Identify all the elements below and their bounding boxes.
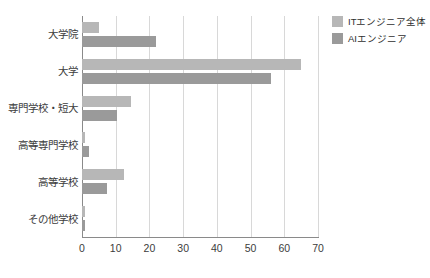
bar-ai [82, 36, 156, 47]
x-axis-tick-labels: 010203040506070 [82, 241, 318, 257]
bar-ai [82, 73, 271, 84]
bar-ai [82, 146, 89, 157]
y-axis-label: 高等専門学校 [2, 139, 78, 151]
y-axis-label: 大学院 [2, 28, 78, 40]
x-tick-label: 60 [278, 241, 290, 255]
bar-it [82, 132, 85, 143]
gridlines [82, 16, 318, 237]
x-tick-label: 70 [312, 241, 324, 255]
y-axis-label: その他学校 [2, 213, 78, 225]
bar-ai [82, 183, 107, 194]
bar-it [82, 59, 301, 70]
bar-chart: 大学院大学専門学校・短大高等専門学校高等学校その他学校 010203040506… [0, 0, 430, 278]
gridline-60 [284, 16, 285, 237]
legend-item-ai[interactable]: AIエンジニア [332, 33, 428, 44]
y-axis-label: 大学 [2, 65, 78, 77]
chart-legend: ITエンジニア全体AIエンジニア [332, 16, 428, 50]
plot-area [82, 16, 318, 237]
y-axis-label: 高等学校 [2, 176, 78, 188]
legend-item-it[interactable]: ITエンジニア全体 [332, 16, 428, 27]
legend-label: AIエンジニア [348, 33, 407, 44]
gridline-30 [183, 16, 184, 237]
bar-it [82, 206, 85, 217]
x-tick-label: 20 [144, 241, 156, 255]
x-tick-label: 30 [177, 241, 189, 255]
gridline-50 [251, 16, 252, 237]
y-axis-label: 専門学校・短大 [2, 102, 78, 114]
bar-ai [82, 110, 117, 121]
gridline-40 [217, 16, 218, 237]
gridline-0 [82, 16, 83, 237]
x-axis-line [82, 237, 319, 238]
gridline-20 [149, 16, 150, 237]
x-tick-label: 40 [211, 241, 223, 255]
bar-it [82, 169, 124, 180]
x-tick-label: 50 [245, 241, 257, 255]
legend-swatch-icon [332, 33, 343, 44]
x-tick-label: 10 [110, 241, 122, 255]
legend-label: ITエンジニア全体 [348, 16, 426, 27]
x-tick-label: 0 [79, 241, 85, 255]
gridline-10 [116, 16, 117, 237]
y-axis-category-labels: 大学院大学専門学校・短大高等専門学校高等学校その他学校 [0, 16, 78, 237]
legend-swatch-icon [332, 16, 343, 27]
bar-ai [82, 220, 85, 231]
bar-it [82, 22, 99, 33]
bar-it [82, 96, 131, 107]
gridline-70 [318, 16, 319, 237]
